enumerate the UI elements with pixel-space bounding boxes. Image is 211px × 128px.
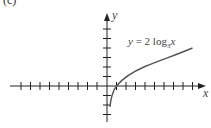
x-axis <box>10 82 206 90</box>
log-curve <box>110 48 193 107</box>
equation-label: y = 2 log3x <box>127 35 175 50</box>
x-axis-label: x <box>202 86 209 100</box>
y-axis-arrow-icon <box>104 13 110 21</box>
equation-var: x <box>169 35 175 47</box>
graph: y x y = 2 log3x <box>0 0 211 128</box>
y-axis-label: y <box>111 8 118 22</box>
